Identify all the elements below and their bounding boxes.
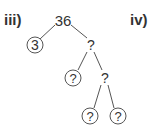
node-label: ? xyxy=(87,37,95,53)
node-label: ? xyxy=(101,70,109,86)
tree-node-q4: ? xyxy=(82,108,98,124)
tree-node-q1: ? xyxy=(87,37,95,53)
tree-node-q2: ? xyxy=(65,70,81,86)
tree-edge-q3-q4 xyxy=(94,85,101,108)
tree-edge-root-q1 xyxy=(71,25,87,38)
tree-edge-q1-q3 xyxy=(94,52,102,70)
tree-edge-q3-q5 xyxy=(108,85,114,108)
tree-edge-root-n3 xyxy=(40,25,55,39)
factor-tree: 363????? xyxy=(0,0,149,133)
node-label: ? xyxy=(114,109,121,124)
tree-node-root: 36 xyxy=(55,12,72,29)
node-label: ? xyxy=(69,71,76,86)
tree-node-q3: ? xyxy=(101,70,109,86)
tree-node-n3: 3 xyxy=(27,37,43,53)
node-label: 3 xyxy=(31,37,39,53)
node-label: 36 xyxy=(55,12,72,29)
tree-edge-q1-q2 xyxy=(78,52,87,70)
node-label: ? xyxy=(86,109,93,124)
tree-node-q5: ? xyxy=(110,108,126,124)
